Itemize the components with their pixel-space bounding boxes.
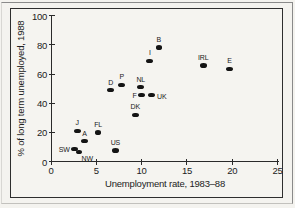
data-point-label-NL: NL [126, 76, 156, 83]
data-point-label-E: E [214, 57, 244, 64]
x-axis-tick-label: 5 [84, 165, 108, 176]
data-point-FL [95, 130, 102, 135]
data-point-label-UK: UK [157, 93, 181, 100]
data-point-P [118, 83, 125, 88]
y-axis-tick-label: 40 [25, 98, 47, 109]
x-axis-tick-label: 15 [175, 165, 199, 176]
data-point-label-B: B [144, 36, 174, 43]
y-axis-line [51, 15, 52, 162]
x-axis-tick-label: 20 [220, 165, 244, 176]
data-point-label-I: I [135, 49, 165, 56]
data-point-label-F: F [113, 92, 137, 99]
data-point-US [112, 148, 119, 153]
data-point-label-SW: SW [46, 146, 70, 153]
data-point-label-NW: NW [82, 155, 106, 162]
data-point-label-FL: FL [83, 121, 113, 128]
y-axis-tick-label: 80 [25, 40, 47, 51]
data-point-DK [132, 113, 139, 118]
y-axis-tick [49, 15, 55, 16]
y-axis-tick [49, 74, 55, 75]
scatter-plot-figure: 0510152025020406080100SWNWAJFLUSDPNLFUKD… [0, 0, 295, 208]
data-point-label-DK: DK [120, 103, 150, 110]
y-axis-tick-label: 0 [25, 157, 47, 168]
y-axis-tick [49, 44, 55, 45]
data-point-IRL [200, 63, 207, 68]
x-axis-tick-label: 10 [130, 165, 154, 176]
data-point-label-US: US [100, 139, 130, 146]
x-axis-title: Unemployment rate, 1983–88 [65, 178, 265, 189]
y-axis-tick-label: 20 [25, 127, 47, 138]
y-axis-tick-label: 60 [25, 69, 47, 80]
y-axis-tick [49, 132, 55, 133]
data-point-J [74, 129, 81, 134]
y-axis-title: % of long term unemployed, 1988 [15, 14, 26, 164]
y-axis-tick [49, 161, 55, 162]
data-point-E [226, 67, 233, 72]
x-axis-tick-label: 25 [266, 165, 290, 176]
y-axis-tick [49, 103, 55, 104]
data-point-I [146, 59, 153, 64]
y-axis-tick-label: 100 [25, 11, 47, 22]
data-point-B [156, 45, 163, 50]
